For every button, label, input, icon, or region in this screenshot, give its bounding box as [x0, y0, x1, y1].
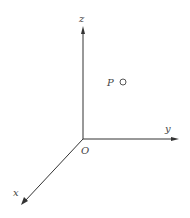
z-axis: z: [78, 13, 85, 139]
point-p-marker-icon: [120, 79, 126, 85]
y-axis-label: y: [164, 123, 171, 134]
x-axis: x: [13, 139, 83, 205]
point-p: P: [106, 77, 126, 88]
x-axis-label: x: [13, 187, 19, 198]
x-axis-line: [25, 139, 83, 201]
origin-label: O: [81, 145, 89, 156]
z-axis-arrowhead-icon: [81, 26, 85, 34]
point-p-label: P: [106, 77, 114, 88]
z-axis-label: z: [78, 13, 85, 24]
y-axis-arrowhead-icon: [171, 137, 179, 141]
coordinate-system-diagram: z y x O P: [0, 0, 190, 218]
y-axis: y: [83, 123, 179, 141]
